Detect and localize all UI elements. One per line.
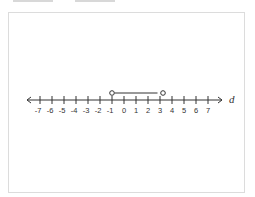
tick-label: 1: [134, 106, 138, 115]
tick-label: 2: [146, 106, 150, 115]
number-line-ticks: -7-6-5-4-3-2-101234567: [35, 96, 210, 115]
open-circle-end-icon: [161, 91, 166, 96]
tick-label: 4: [170, 106, 174, 115]
number-line: -7-6-5-4-3-2-101234567 d: [0, 0, 255, 197]
tick-label: 7: [206, 106, 210, 115]
tick-label: 6: [194, 106, 198, 115]
tick-label: 0: [122, 106, 126, 115]
tick-label: -3: [83, 106, 90, 115]
tick-label: -7: [35, 106, 42, 115]
tick-label: 5: [182, 106, 186, 115]
tick-label: -4: [71, 106, 78, 115]
solution-segment: [110, 91, 166, 96]
tick-label: -1: [107, 106, 114, 115]
variable-label: d: [229, 93, 235, 105]
tick-label: -2: [95, 106, 102, 115]
tick-label: 3: [158, 106, 162, 115]
open-circle-start-icon: [110, 91, 115, 96]
tick-label: -6: [47, 106, 54, 115]
tick-label: -5: [59, 106, 66, 115]
